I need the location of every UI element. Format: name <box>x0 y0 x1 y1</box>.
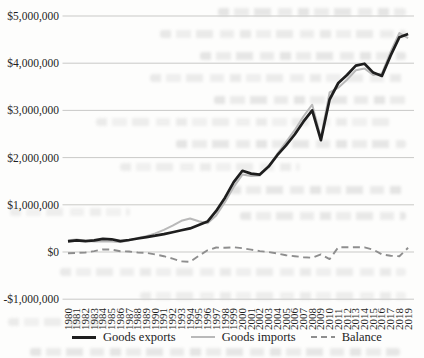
legend-item-goods-exports: Goods exports <box>72 331 176 344</box>
balance-line <box>68 247 408 262</box>
y-axis-tick-label: -$1,000,000 <box>3 293 59 306</box>
goods-imports-line-sample <box>191 336 215 338</box>
legend-label-goods-exports: Goods exports <box>103 331 176 344</box>
y-axis-tick-label: $2,000,000 <box>7 152 59 165</box>
y-axis-tick-label: $5,000,000 <box>7 10 59 23</box>
legend-label-balance: Balance <box>342 331 382 344</box>
y-axis-tick-label: $3,000,000 <box>7 104 59 117</box>
balance-line-sample <box>311 336 335 338</box>
y-axis-tick-label: $1,000,000 <box>7 199 59 212</box>
goods-exports-line <box>68 34 408 242</box>
chart-legend: Goods exports Goods imports Balance <box>40 331 414 344</box>
legend-item-balance: Balance <box>311 331 382 344</box>
trade-line-chart: -$1,000,000$0$1,000,000$2,000,000$3,000,… <box>0 0 424 358</box>
goods-exports-line-sample <box>72 336 96 339</box>
legend-item-goods-imports: Goods imports <box>191 331 296 344</box>
y-axis-tick-label: $0 <box>48 246 60 258</box>
scanned-book-page: -$1,000,000$0$1,000,000$2,000,000$3,000,… <box>0 0 424 358</box>
y-axis-tick-label: $4,000,000 <box>7 57 59 70</box>
x-axis-tick-label: 2019 <box>402 308 414 331</box>
legend-label-goods-imports: Goods imports <box>222 331 296 344</box>
